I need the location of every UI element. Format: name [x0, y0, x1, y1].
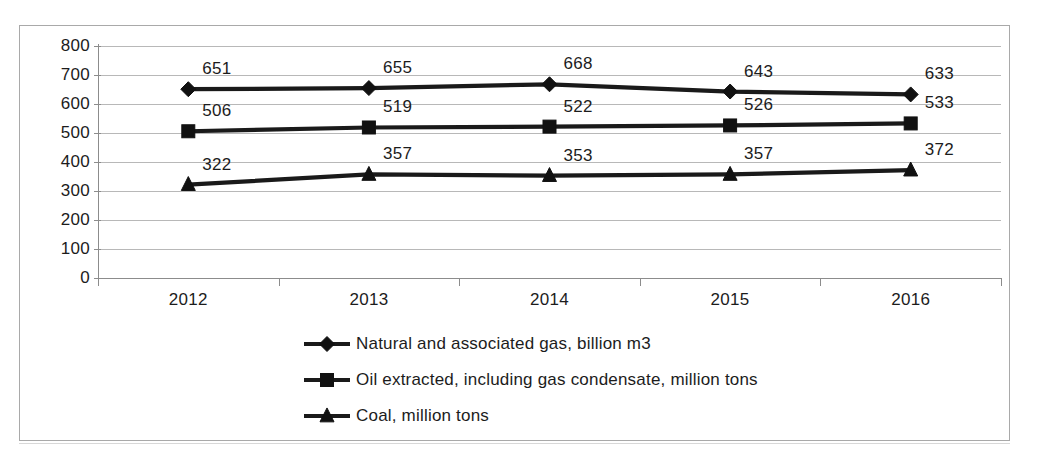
- legend-label: Natural and associated gas, billion m3: [356, 334, 651, 354]
- data-point-marker-square: [724, 119, 737, 132]
- scan-edge-line: [19, 443, 1010, 444]
- x-axis-tick-label: 2014: [490, 290, 610, 310]
- legend-marker-square-icon: [302, 371, 354, 389]
- x-axis-tick-mark: [279, 278, 280, 286]
- legend-label: Coal, million tons: [356, 406, 489, 426]
- x-axis-tick-mark: [820, 278, 821, 286]
- y-axis-tick-label: 200: [30, 211, 90, 228]
- x-axis-line: [98, 278, 1001, 279]
- y-axis-tick-label: 400: [30, 153, 90, 170]
- legend-marker-triangle-icon: [302, 407, 354, 425]
- y-axis-tick-label: 500: [30, 124, 90, 141]
- legend-item[interactable]: Coal, million tons: [20, 398, 1011, 434]
- y-axis-tick-mark: [94, 162, 101, 163]
- data-label: 651: [202, 60, 231, 77]
- legend-item[interactable]: Oil extracted, including gas condensate,…: [20, 362, 1011, 398]
- chart-legend: Natural and associated gas, billion m3Oi…: [20, 326, 1011, 434]
- data-point-marker-square: [362, 121, 375, 134]
- x-axis-tick-label: 2016: [851, 290, 971, 310]
- y-axis-tick-label: 0: [30, 269, 90, 286]
- data-label: 668: [564, 55, 593, 72]
- data-label: 322: [202, 156, 231, 173]
- data-label: 522: [564, 98, 593, 115]
- legend-item[interactable]: Natural and associated gas, billion m3: [20, 326, 1011, 362]
- y-axis-tick-label: 600: [30, 95, 90, 112]
- data-label: 519: [383, 98, 412, 115]
- data-label: 506: [202, 102, 231, 119]
- data-point-marker-diamond: [181, 82, 196, 97]
- data-label: 633: [925, 65, 954, 82]
- y-axis-tick-mark: [94, 46, 101, 47]
- y-axis-tick-mark: [94, 75, 101, 76]
- data-label: 643: [744, 63, 773, 80]
- chart-frame: 8007006005004003002001000 20122013201420…: [19, 25, 1010, 441]
- data-label: 357: [383, 145, 412, 162]
- data-label: 353: [564, 147, 593, 164]
- data-label: 533: [925, 94, 954, 111]
- y-axis-tick-mark: [94, 249, 101, 250]
- data-point-marker-square: [321, 374, 334, 387]
- x-axis-tick-label: 2013: [309, 290, 429, 310]
- data-point-marker-diamond: [361, 81, 376, 96]
- data-label: 357: [744, 145, 773, 162]
- x-axis-tick-mark: [98, 278, 99, 286]
- series-plot: [98, 46, 1001, 278]
- data-label: 655: [383, 59, 412, 76]
- data-point-marker-diamond: [542, 77, 557, 92]
- data-label: 372: [925, 141, 954, 158]
- legend-label: Oil extracted, including gas condensate,…: [356, 370, 758, 390]
- y-axis-tick-label: 100: [30, 240, 90, 257]
- y-axis-tick-mark: [94, 133, 101, 134]
- y-axis-tick-label: 800: [30, 37, 90, 54]
- data-point-marker-diamond: [723, 84, 738, 99]
- data-point-marker-square: [182, 125, 195, 138]
- data-point-marker-diamond: [903, 87, 918, 102]
- data-point-marker-square: [543, 120, 556, 133]
- y-axis-tick-label: 300: [30, 182, 90, 199]
- y-axis-tick-mark: [94, 191, 101, 192]
- data-point-marker-square: [904, 117, 917, 130]
- y-axis-tick-label: 700: [30, 66, 90, 83]
- legend-marker-diamond-icon: [302, 335, 354, 353]
- data-label: 526: [744, 96, 773, 113]
- y-axis-tick-mark: [94, 104, 101, 105]
- x-axis-tick-mark: [640, 278, 641, 286]
- data-point-marker-diamond: [320, 337, 335, 352]
- x-axis-tick-label: 2012: [128, 290, 248, 310]
- y-axis-tick-mark: [94, 220, 101, 221]
- x-axis-tick-mark: [459, 278, 460, 286]
- x-axis-tick-mark: [1001, 278, 1002, 286]
- x-axis-tick-label: 2015: [670, 290, 790, 310]
